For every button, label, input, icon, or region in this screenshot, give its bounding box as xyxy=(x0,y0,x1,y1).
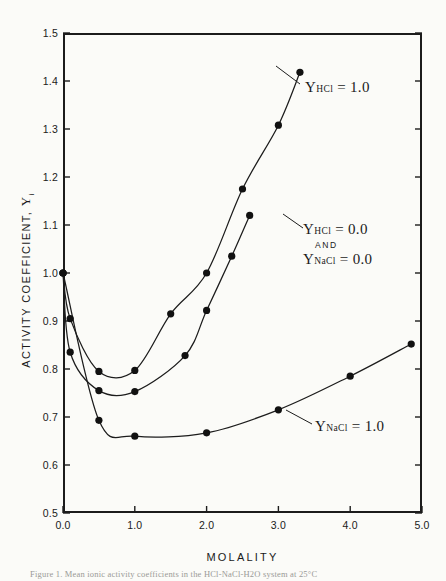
y-axis-tick-label: 0.5 xyxy=(28,507,58,519)
data-point-marker xyxy=(131,367,138,374)
data-point-marker xyxy=(408,340,415,347)
x-axis-title: MOLALITY xyxy=(63,551,422,563)
tick-marks xyxy=(63,33,422,513)
data-point-marker xyxy=(67,349,74,356)
annotation-mixed: ΥHCl = 0.0 AND ΥNaCl = 0.0 xyxy=(303,222,372,267)
x-axis-tick-label: 2.0 xyxy=(187,519,227,531)
data-point-marker xyxy=(203,307,210,314)
x-axis-tick-label: 3.0 xyxy=(258,519,298,531)
y-axis-tick-label: 0.7 xyxy=(28,411,58,423)
annotation-leader-line xyxy=(286,410,312,424)
annotation-leader-line xyxy=(276,66,300,84)
annotation-mixed-row-b: ΥNaCl = 0.0 xyxy=(303,252,372,267)
data-point-marker xyxy=(67,315,74,322)
figure-caption: Figure 1. Mean ionic activity coefficien… xyxy=(30,569,430,579)
y-axis-tick-label: 1.5 xyxy=(28,27,58,39)
data-point-marker xyxy=(203,269,210,276)
annotation-hcl-1-subscript: HCl xyxy=(316,84,333,94)
x-axis-tick-label: 5.0 xyxy=(402,519,442,531)
series-line xyxy=(63,273,411,438)
x-axis-tick-label: 0.0 xyxy=(43,519,83,531)
annotation-mixed-and: AND xyxy=(315,241,372,250)
annotation-nacl-1-symbol: Υ xyxy=(315,418,326,434)
y-axis-tick-label: 0.6 xyxy=(28,459,58,471)
data-point-marker xyxy=(95,417,102,424)
y-axis-tick-label: 1.4 xyxy=(28,75,58,87)
y-axis-tick-label: 1.3 xyxy=(28,123,58,135)
x-axis-tick-label: 1.0 xyxy=(115,519,155,531)
y-axis-title-subscript: i xyxy=(27,193,36,195)
y-axis-title-text: ACTIVITY COEFFICIENT, xyxy=(20,206,32,367)
y-axis-title: ACTIVITY COEFFICIENT, Υi xyxy=(18,176,35,386)
annotation-hcl-1: ΥHCl = 1.0 xyxy=(305,79,370,96)
series-line xyxy=(63,215,250,395)
chart-canvas xyxy=(0,0,446,581)
data-point-marker xyxy=(131,388,138,395)
annotation-mixed-symbol-a: Υ xyxy=(303,221,314,237)
series-line xyxy=(63,72,300,377)
data-point-marker xyxy=(181,352,188,359)
annotation-mixed-value-b: = 0.0 xyxy=(340,251,372,267)
data-point-marker xyxy=(167,310,174,317)
figure-container: 0.50.60.70.80.91.01.11.21.31.41.5 0.01.0… xyxy=(0,0,446,581)
data-point-marker xyxy=(239,185,246,192)
data-point-marker xyxy=(275,122,282,129)
data-point-marker xyxy=(95,387,102,394)
annotation-hcl-1-symbol: Υ xyxy=(305,79,316,95)
x-axis-tick-label: 4.0 xyxy=(330,519,370,531)
data-point-marker xyxy=(228,253,235,260)
data-point-marker xyxy=(203,429,210,436)
data-point-marker xyxy=(275,406,282,413)
annotation-hcl-1-value: = 1.0 xyxy=(337,79,369,95)
data-point-marker xyxy=(347,373,354,380)
data-point-marker xyxy=(59,269,66,276)
annotation-mixed-subscript-a: HCl xyxy=(314,226,331,236)
y-axis-title-symbol: Υ xyxy=(18,196,33,207)
annotation-mixed-value-a: = 0.0 xyxy=(335,221,367,237)
annotation-nacl-1-value: = 1.0 xyxy=(352,418,384,434)
annotation-nacl-1: ΥNaCl = 1.0 xyxy=(315,418,384,435)
x-axis-tick-labels: 0.01.02.03.04.05.0 xyxy=(0,519,446,539)
data-point-marker xyxy=(296,69,303,76)
annotation-mixed-symbol-b: Υ xyxy=(303,251,314,267)
annotation-mixed-subscript-b: NaCl xyxy=(314,256,336,266)
data-point-marker xyxy=(95,368,102,375)
annotation-leader-line xyxy=(283,214,303,228)
annotation-nacl-1-subscript: NaCl xyxy=(326,423,348,433)
data-point-marker xyxy=(131,433,138,440)
data-point-marker xyxy=(246,212,253,219)
